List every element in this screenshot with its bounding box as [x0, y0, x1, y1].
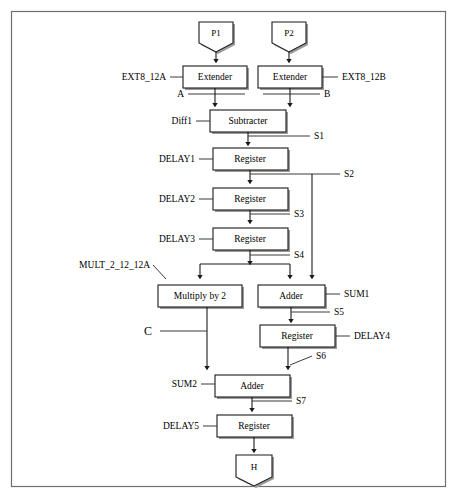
block-subtracter: Subtracter [210, 110, 288, 134]
block-register-4: Register [260, 325, 337, 349]
label-ext8-12b: EXT8_12B [342, 72, 386, 82]
label-delay1: DELAY1 [159, 154, 195, 164]
label-delay2: DELAY2 [159, 194, 195, 204]
label-s4: S4 [294, 250, 304, 260]
register1-label: Register [234, 154, 266, 164]
label-s3: S3 [294, 209, 304, 219]
block-extender-b: Extender [258, 66, 324, 90]
multiply-label: Multiply by 2 [174, 291, 227, 301]
label-delay3: DELAY3 [159, 234, 195, 244]
leader-mult-label [153, 265, 166, 279]
label-s2: S2 [344, 169, 354, 179]
block-extender-a: Extender [183, 66, 249, 90]
block-register-5: Register [217, 415, 294, 439]
label-signal-c: C [144, 324, 152, 338]
input-node-p2: P2 [272, 22, 308, 54]
label-s6: S6 [316, 351, 326, 361]
subtracter-label: Subtracter [228, 116, 268, 126]
block-register-3: Register [213, 228, 290, 252]
register3-label: Register [234, 234, 266, 244]
adder1-label: Adder [279, 291, 304, 301]
output-node-h: H [236, 455, 274, 488]
label-sum1: SUM1 [344, 289, 370, 299]
label-s7: S7 [296, 396, 306, 406]
extender-b-label: Extender [273, 72, 308, 82]
label-delay5: DELAY5 [163, 421, 199, 431]
label-input-a: A [177, 89, 184, 99]
block-adder-1: Adder [258, 285, 327, 309]
diagram-canvas: P1 P2 Extender Extender EXT8_12A EXT8_12… [0, 0, 458, 499]
label-sum2: SUM2 [172, 379, 198, 389]
label-input-b: B [324, 89, 330, 99]
h-label: H [251, 462, 258, 472]
block-register-1: Register [213, 148, 290, 172]
block-register-2: Register [213, 188, 290, 212]
p2-label: P2 [284, 28, 294, 38]
label-mult-2-12-12a: MULT_2_12_12A [79, 260, 150, 270]
label-s5: S5 [334, 307, 344, 317]
block-multiply-by-2: Multiply by 2 [158, 285, 244, 309]
label-ext8-12a: EXT8_12A [122, 72, 166, 82]
label-diff1: Diff1 [172, 116, 193, 126]
register2-label: Register [234, 194, 266, 204]
block-diagram: P1 P2 Extender Extender EXT8_12A EXT8_12… [0, 0, 458, 499]
label-delay4: DELAY4 [354, 331, 390, 341]
p1-label: P1 [211, 28, 221, 38]
extender-a-label: Extender [198, 72, 233, 82]
input-node-p1: P1 [199, 22, 235, 54]
adder2-label: Adder [240, 381, 265, 391]
block-adder-2: Adder [215, 375, 292, 399]
label-s1: S1 [314, 131, 324, 141]
register4-label: Register [281, 331, 313, 341]
leader-s6 [290, 356, 312, 365]
register5-label: Register [238, 421, 270, 431]
